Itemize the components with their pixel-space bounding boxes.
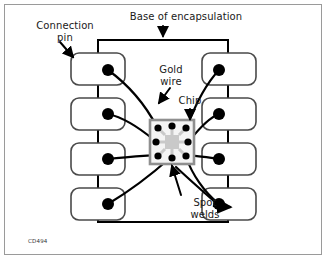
pin-left-1[interactable] xyxy=(71,53,125,85)
label-connection-pin: Connection pin xyxy=(24,20,106,43)
figure-container: Connection pin Base of encapsulation Gol… xyxy=(0,0,327,260)
leader-connection-pin-arrow xyxy=(60,42,73,57)
label-spot-welds: Spot welds xyxy=(181,197,229,220)
pin-right-2[interactable] xyxy=(202,98,256,130)
chip-pad-tr xyxy=(182,124,189,131)
figure-code-label: CD494 xyxy=(28,236,48,248)
pin-left-4[interactable] xyxy=(71,188,125,220)
label-chip: Chip xyxy=(170,95,210,107)
chip[interactable] xyxy=(150,120,194,164)
pin-right-3[interactable] xyxy=(202,143,256,175)
chip-pad-br xyxy=(182,152,189,159)
chip-pad-mr xyxy=(184,138,191,145)
chip-pad-bl xyxy=(154,152,161,159)
leader-gold-wire-arrow xyxy=(159,88,170,103)
chip-pad-tl xyxy=(154,124,161,131)
pin-left-2[interactable] xyxy=(71,98,125,130)
label-gold-wire: Gold wire xyxy=(149,64,193,87)
label-base-of-encapsulation: Base of encapsulation xyxy=(122,11,250,23)
chip-pad-ml xyxy=(152,138,159,145)
chip-pad-bc xyxy=(168,154,175,161)
chip-pad-tc xyxy=(168,122,175,129)
chip-die xyxy=(165,135,179,149)
